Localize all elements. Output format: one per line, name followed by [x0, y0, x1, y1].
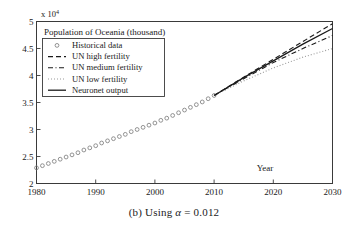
data-point-marker: [106, 139, 110, 143]
data-point-marker: [94, 144, 98, 148]
x-tick-label: 2000: [146, 187, 165, 197]
y-axis-ticks: 22.533.544.55: [22, 17, 40, 189]
x-tick-label: 2030: [324, 187, 343, 197]
x-tick-label: 2010: [205, 187, 224, 197]
legend-item-label: UN low fertility: [72, 74, 128, 84]
caption-value: = 0.012: [181, 206, 219, 218]
data-point-marker: [76, 151, 80, 155]
data-point-marker: [194, 103, 198, 107]
x-axis-label: Year: [257, 163, 274, 173]
y-tick-label: 3: [29, 125, 34, 135]
data-point-marker: [46, 162, 50, 166]
figure-panel: 22.533.544.55 198019902000201020202030 x…: [0, 0, 348, 238]
data-point-marker: [165, 116, 169, 120]
x-tick-label: 1980: [28, 187, 47, 197]
data-point-marker: [88, 146, 92, 150]
data-point-marker: [41, 164, 45, 168]
legend-item-label: UN high fertility: [72, 51, 130, 61]
y-tick-label: 2.5: [22, 152, 34, 162]
y-tick-label: 3.5: [22, 98, 34, 108]
data-point-marker: [70, 153, 74, 157]
series-historical-data: [35, 94, 216, 170]
chart-title: Population of Oceania (thousand): [44, 27, 165, 37]
chart-legend: Historical dataUN high fertilityUN mediu…: [43, 39, 165, 97]
data-point-marker: [153, 121, 157, 125]
y-tick-label: 4.5: [22, 44, 34, 54]
y-multiplier-exponent: 4: [56, 9, 59, 15]
y-tick-label: 5: [29, 17, 34, 27]
data-point-marker: [206, 97, 210, 101]
data-point-marker: [141, 125, 145, 129]
y-tick-label: 4: [29, 71, 34, 81]
data-point-marker: [189, 105, 193, 109]
data-point-marker: [200, 100, 204, 104]
legend-item-label: Historical data: [72, 40, 123, 50]
series-un-medium-fertility: [214, 36, 332, 96]
data-point-marker: [52, 159, 56, 163]
y-axis-multiplier-label: x 104: [41, 9, 59, 20]
data-point-marker: [117, 135, 121, 139]
data-point-marker: [177, 111, 181, 115]
caption-prefix: (b) Using: [129, 206, 176, 218]
data-point-marker: [171, 114, 175, 118]
figure-caption: (b) Using α = 0.012: [0, 206, 348, 218]
data-point-marker: [58, 157, 62, 161]
x-tick-label: 2020: [264, 187, 283, 197]
x-axis-ticks: 198019902000201020202030: [28, 180, 343, 197]
data-point-marker: [100, 141, 104, 145]
data-point-marker: [183, 108, 187, 112]
data-point-marker: [135, 128, 139, 132]
data-point-marker: [123, 132, 127, 136]
data-point-marker: [129, 130, 133, 134]
legend-item-label: Neuronet output: [72, 85, 129, 95]
data-point-marker: [64, 155, 68, 159]
x-tick-label: 1990: [87, 187, 106, 197]
y-multiplier-base: x 10: [41, 9, 56, 19]
series-un-low-fertility: [214, 49, 332, 96]
data-point-marker: [159, 118, 163, 122]
data-point-marker: [112, 137, 116, 141]
data-point-marker: [147, 123, 151, 127]
legend-item-label: UN medium fertility: [72, 62, 143, 72]
chart-plot-area: 22.533.544.55 198019902000201020202030 x…: [0, 0, 348, 200]
population-oceania-line-chart: 22.533.544.55 198019902000201020202030 x…: [0, 0, 348, 200]
data-point-marker: [82, 148, 86, 152]
